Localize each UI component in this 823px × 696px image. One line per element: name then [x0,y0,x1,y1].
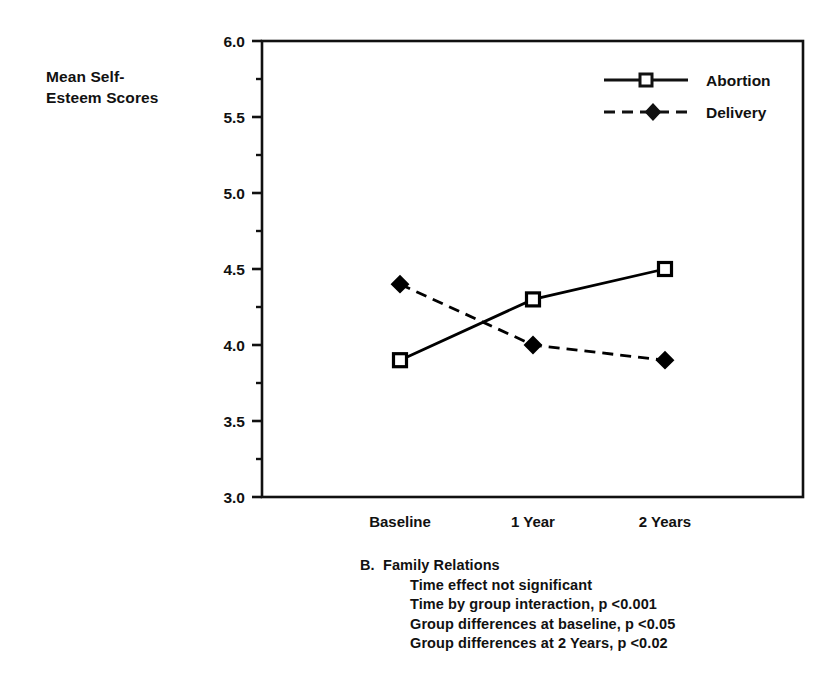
y-tick-label: 3.0 [223,489,245,506]
series-layer [392,263,673,369]
legend: Abortion Delivery [604,72,771,121]
y-tick-label: 5.5 [223,109,245,126]
data-point-filled-diamond [657,352,673,368]
legend-item-abortion: Abortion [604,72,771,89]
data-point-open-square [394,354,407,367]
y-tick-label: 4.0 [223,337,245,354]
x-category-label-baseline: Baseline [369,513,431,530]
caption-note: Group differences at 2 Years, p <0.02 [360,634,675,654]
data-point-open-square [659,263,672,276]
legend-label-abortion: Abortion [706,72,771,89]
data-point-filled-diamond [525,337,541,353]
figure: Mean Self- Esteem Scores 6.0 5.5 5.0 4.5 [0,0,823,696]
caption-note: Group differences at baseline, p <0.05 [360,615,675,635]
data-point-filled-diamond [392,276,408,292]
x-category-label-1-year: 1 Year [511,513,555,530]
legend-marker-filled-diamond [646,105,660,120]
legend-label-delivery: Delivery [706,104,767,121]
y-tick-label: 3.5 [223,413,245,430]
caption-block: B. Family Relations Time effect not sign… [360,556,675,654]
y-tick-label: 4.5 [223,261,245,278]
series-delivery [392,276,673,368]
y-major-ticks [252,41,262,497]
data-point-open-square [527,293,540,306]
x-category-label-2-years: 2 Years [639,513,691,530]
y-tick-label: 6.0 [223,33,245,50]
legend-marker-open-square [640,74,652,86]
caption-note: Time by group interaction, p <0.001 [360,595,675,615]
caption-title: B. Family Relations [360,556,675,576]
y-tick-label: 5.0 [223,185,245,202]
caption-note: Time effect not significant [360,576,675,596]
legend-item-delivery: Delivery [604,104,767,121]
